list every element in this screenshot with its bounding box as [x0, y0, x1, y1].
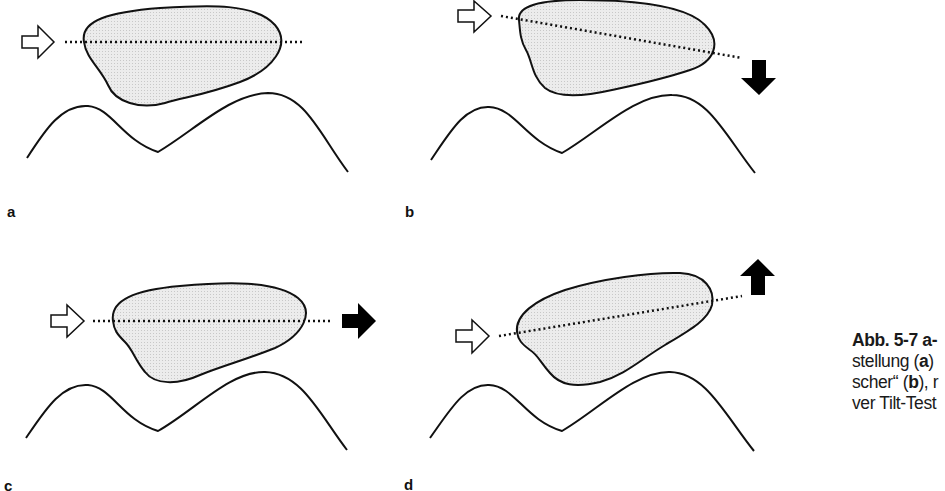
panel-label-a: a — [7, 203, 15, 220]
wave-curve — [26, 372, 347, 450]
caption-text: stellung ( — [852, 351, 919, 371]
solid-right-arrow-icon — [342, 303, 376, 339]
panel-a — [22, 6, 348, 172]
panel-b — [431, 0, 776, 173]
solid-up-arrow-icon — [740, 259, 775, 295]
panel-label-c: c — [4, 477, 12, 491]
panel-label-b: b — [405, 203, 414, 220]
caption-text: ), r — [918, 372, 938, 392]
caption-line-1: stellung (a) — [852, 351, 945, 372]
caption-title: Abb. 5-7 a- — [852, 330, 945, 351]
panel-d — [430, 259, 775, 451]
caption-text: scher“ ( — [852, 372, 908, 392]
figure-caption: Abb. 5-7 a- stellung (a) scher“ (b), r v… — [852, 330, 945, 414]
gray-blob — [113, 283, 306, 382]
outline-right-arrow-icon — [458, 1, 491, 32]
panel-label-d: d — [404, 476, 413, 491]
outline-right-arrow-icon — [51, 305, 84, 337]
outline-right-arrow-icon — [456, 320, 489, 353]
wave-curve — [431, 95, 755, 173]
caption-ref-b: b — [908, 372, 918, 392]
wave-curve — [27, 93, 348, 172]
outline-right-arrow-icon — [22, 26, 54, 58]
panel-c — [26, 283, 376, 450]
caption-line-2: scher“ (b), r — [852, 372, 945, 393]
caption-line-3: ver Tilt-Test — [852, 393, 945, 414]
gray-blob — [84, 6, 282, 105]
gray-blob — [517, 273, 713, 385]
caption-text: ) — [928, 351, 933, 371]
caption-ref-a: a — [919, 351, 928, 371]
tilt-test-diagram — [0, 0, 945, 491]
solid-down-arrow-icon — [741, 60, 776, 95]
